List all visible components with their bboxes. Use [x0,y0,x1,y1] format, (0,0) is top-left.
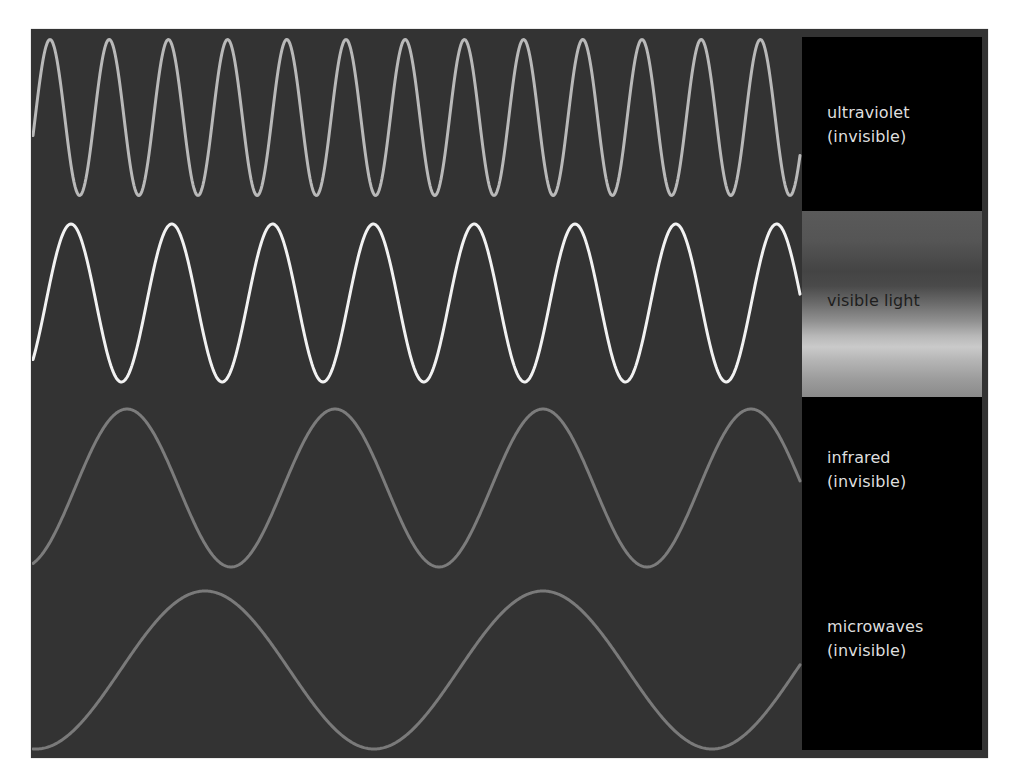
infrared-label-name: infrared [827,446,906,470]
microwaves-wave [33,591,800,749]
infrared-wave [33,409,800,567]
visible-light-label: visible light [827,289,920,313]
visible-light-wave [33,224,800,382]
microwaves-label-note: (invisible) [827,639,923,663]
visible-light-label-name: visible light [827,289,920,313]
microwaves-label: microwaves (invisible) [827,615,923,663]
ultraviolet-wave [33,40,800,196]
infrared-label: infrared (invisible) [827,446,906,494]
microwaves-label-name: microwaves [827,615,923,639]
infrared-label-note: (invisible) [827,470,906,494]
ultraviolet-label-note: (invisible) [827,125,910,149]
ultraviolet-label-name: ultraviolet [827,101,910,125]
ultraviolet-label: ultraviolet (invisible) [827,101,910,149]
